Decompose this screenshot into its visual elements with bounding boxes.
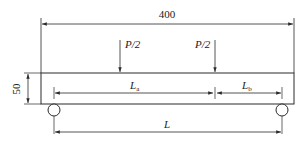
load-label-left: P/2 <box>124 38 141 50</box>
segment-b-label: Lb <box>241 79 252 93</box>
beam-diagram: 400 50 P/2 P/2 La Lb L <box>0 0 306 143</box>
segment-a-label: La <box>129 79 140 93</box>
total-length-label: 400 <box>159 8 176 20</box>
beam-body <box>41 73 294 104</box>
height-label: 50 <box>10 83 22 95</box>
total-length-dimension: 400 <box>41 8 294 73</box>
load-left: P/2 <box>120 38 141 72</box>
load-right: P/2 <box>194 38 215 72</box>
segment-dimensions: La Lb <box>54 79 282 99</box>
height-dimension: 50 <box>10 73 41 104</box>
roller-support-right-icon <box>276 104 288 116</box>
load-label-right: P/2 <box>194 38 211 50</box>
span-dimension: L <box>54 116 282 134</box>
span-label: L <box>163 118 170 130</box>
roller-support-left-icon <box>48 104 60 116</box>
